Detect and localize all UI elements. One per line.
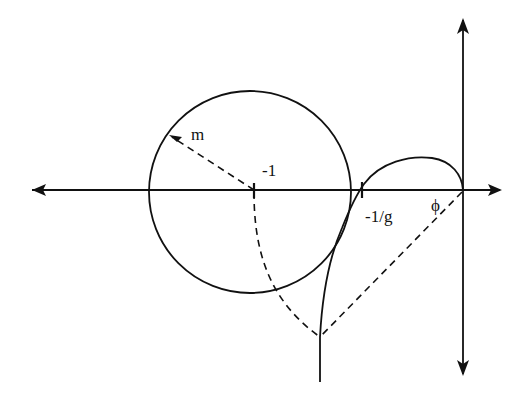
imaginary-axis: [457, 18, 469, 376]
radius-line: [172, 137, 254, 190]
locus-arc: [254, 192, 320, 337]
nyquist-diagram: m -1 -1/g ϕ: [0, 0, 516, 396]
label-minus-one-over-g: -1/g: [365, 207, 393, 226]
m-circle: [149, 91, 351, 293]
real-axis: [32, 184, 502, 196]
nyquist-curve: [320, 157, 463, 382]
radius-arrow-icon: [169, 135, 182, 142]
label-m: m: [191, 125, 204, 144]
label-phi: ϕ: [431, 196, 440, 215]
label-minus-one: -1: [262, 161, 276, 180]
